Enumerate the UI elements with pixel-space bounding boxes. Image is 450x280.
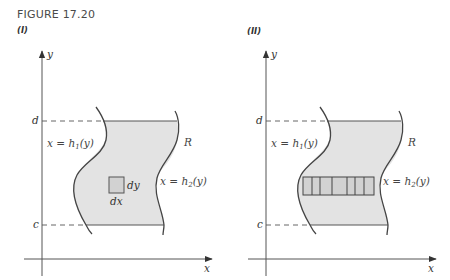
region-label: R bbox=[407, 136, 416, 148]
h2-equation: x = h2(y) bbox=[160, 175, 207, 189]
x-axis-label: x bbox=[204, 262, 210, 274]
panel-1: (I) dy dx y x d c x = h1(y) x = h2(y) R bbox=[17, 25, 212, 276]
h2-equation: x = h2(y) bbox=[383, 175, 430, 189]
region-label: R bbox=[183, 136, 192, 148]
dx-label: dx bbox=[110, 195, 123, 207]
panel-label: (II) bbox=[247, 26, 261, 36]
area-element-dxdy bbox=[109, 177, 124, 193]
y-axis-label: y bbox=[270, 48, 278, 60]
h1-equation: x = h1(y) bbox=[271, 137, 318, 151]
panel-2: (II) y x d c x = h1(y) x = h2(y) R bbox=[247, 26, 436, 276]
figure-canvas: FIGURE 17.20 (I) dy dx y x d c x = h1(y)… bbox=[0, 0, 450, 280]
y-axis-label: y bbox=[46, 48, 54, 60]
c-label: c bbox=[33, 218, 39, 230]
d-label: d bbox=[32, 114, 39, 126]
dy-label: dy bbox=[127, 179, 141, 191]
h1-equation: x = h1(y) bbox=[47, 137, 94, 151]
figure-title: FIGURE 17.20 bbox=[17, 8, 95, 21]
x-axis-label: x bbox=[428, 262, 434, 274]
horizontal-strip bbox=[303, 177, 374, 195]
strip-outline bbox=[303, 177, 374, 195]
c-label: c bbox=[257, 218, 263, 230]
d-label: d bbox=[256, 114, 263, 126]
panel-label: (I) bbox=[17, 25, 28, 35]
